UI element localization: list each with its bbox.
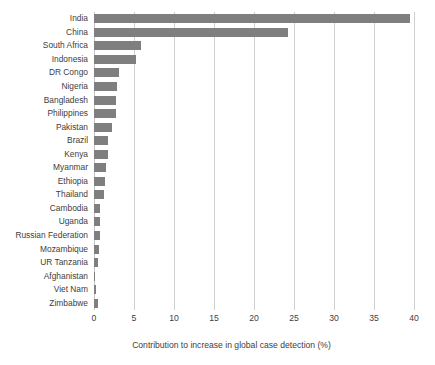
category-label: South Africa [0,41,88,50]
bar [94,231,100,240]
category-label: Russian Federation [0,231,88,240]
category-label: China [0,28,88,37]
x-tick-label-10: 10 [169,312,179,324]
bar [94,245,99,254]
gridline-35 [374,12,375,310]
bar [94,96,116,105]
category-label: Philippines [0,109,88,118]
bar [94,123,112,132]
x-tick-label-35: 35 [369,312,379,324]
bar [94,272,95,281]
category-label: Indonesia [0,55,88,64]
bar [94,190,104,199]
bar-chart-figure: IndiaChinaSouth AfricaIndonesiaDR CongoN… [0,0,435,365]
bar [94,150,108,159]
bar [94,136,108,145]
x-tick-label-5: 5 [132,312,137,324]
category-label: Ethiopia [0,177,88,186]
category-label: Pakistan [0,123,88,132]
category-label: Thailand [0,190,88,199]
x-tick-label-20: 20 [249,312,259,324]
bar [94,163,106,172]
bar [94,285,96,294]
gridline-40 [414,12,415,310]
x-axis-title: Contribution to increase in global case … [0,340,435,350]
x-tick-label-40: 40 [409,312,419,324]
category-label: Myanmar [0,163,88,172]
bar [94,55,136,64]
x-axis-title-text: Contribution to increase in global case … [132,340,331,350]
category-label: Brazil [0,136,88,145]
category-label: Uganda [0,217,88,226]
gridline-20 [254,12,255,310]
category-label: India [0,14,88,23]
bar [94,177,105,186]
x-tick-label-25: 25 [289,312,299,324]
gridline-25 [294,12,295,310]
bar [94,258,98,267]
bar [94,28,288,37]
category-label: Mozambique [0,245,88,254]
category-label: Bangladesh [0,96,88,105]
x-tick-label-30: 30 [329,312,339,324]
x-tick-label-15: 15 [209,312,219,324]
bar [94,41,141,50]
category-label: Viet Nam [0,285,88,294]
bar [94,68,119,77]
bar [94,217,100,226]
gridline-15 [214,12,215,310]
bar [94,82,117,91]
bar [94,204,100,213]
category-label: Nigeria [0,82,88,91]
bar [94,109,116,118]
category-label: DR Congo [0,68,88,77]
x-tick-label-0: 0 [92,312,97,324]
bar [94,14,410,23]
gridline-10 [174,12,175,310]
value-axis-ticks: 0510152025303540 [94,312,414,326]
category-label: Cambodia [0,204,88,213]
category-label: Zimbabwe [0,299,88,308]
bar [94,299,98,308]
gridline-30 [334,12,335,310]
category-label: Afghanistan [0,272,88,281]
category-axis-labels: IndiaChinaSouth AfricaIndonesiaDR CongoN… [0,12,88,310]
plot-area [94,12,414,310]
category-label: UR Tanzania [0,258,88,267]
category-label: Kenya [0,150,88,159]
